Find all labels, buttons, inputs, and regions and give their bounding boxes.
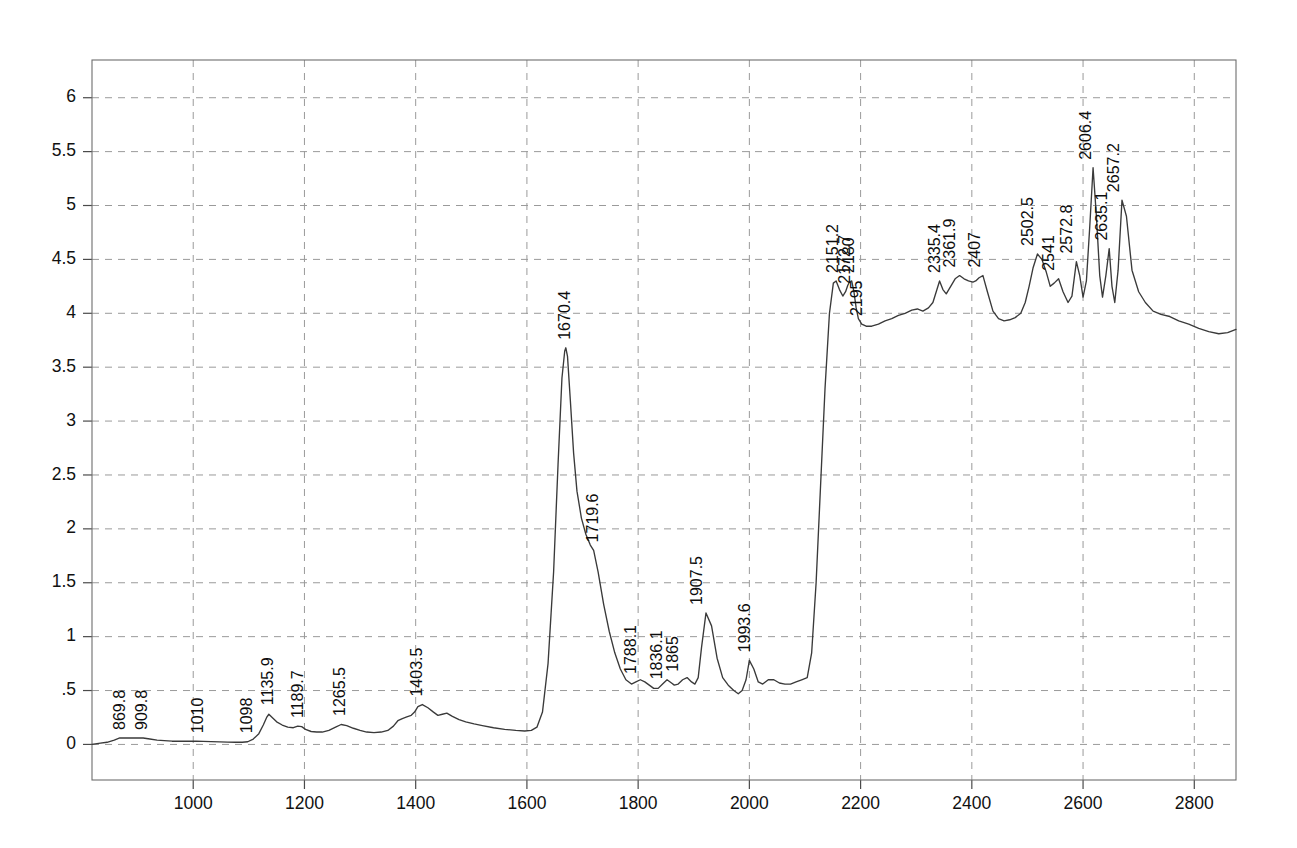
peak-label: 1135.9 [259,657,276,705]
x-axis-tick-label: 1200 [285,793,324,813]
x-axis-tick-label: 1000 [174,793,213,813]
x-axis-tick-label: 2000 [730,793,769,813]
y-axis-tick-label: 3.5 [52,356,76,376]
x-axis-tick-label: 2800 [1175,793,1214,813]
peak-label: 1865 [665,636,682,672]
peak-label: 1098 [238,698,255,734]
y-axis-tick-label: 4 [66,302,76,322]
y-axis-tick-label: 0 [66,733,76,753]
peak-label: 2361.9 [941,219,958,268]
peak-label: 909.8 [133,690,150,730]
y-axis-tick-label: 3 [66,410,76,430]
spectrum-plot: 0.511.522.533.544.555.56 100012001400160… [0,0,1297,848]
peak-label: 2572.8 [1058,205,1075,254]
y-axis-tick-label: 5.5 [52,140,76,160]
y-axis-tick-label: 1.5 [52,571,76,591]
peak-label: 1189.7 [289,670,306,718]
peak-label: 1403.5 [408,648,425,697]
peak-label: 2541 [1040,235,1057,271]
peak-labels-group: 869.8909.8101010981135.91189.71265.51403… [111,111,1122,733]
x-axis-tick-label: 1600 [507,793,546,813]
spectrum-chart: 0.511.522.533.544.555.56 100012001400160… [0,0,1297,848]
peak-label: 1907.5 [688,556,705,605]
x-axis-tick-label: 2600 [1064,793,1103,813]
y-axis-labels: 0.511.522.533.544.555.56 [52,86,77,753]
peak-label: 1836.1 [648,630,665,679]
x-axis-tick-label: 2200 [841,793,880,813]
y-axis-tick-label: 6 [66,86,76,106]
peak-label: 1265.5 [331,667,348,716]
y-axis-tick-label: 2 [66,517,76,537]
peak-label: 2606.4 [1077,111,1094,160]
x-axis-labels: 1000120014001600180020002200240026002800 [174,793,1214,813]
y-axis-tick-label: 1 [66,625,76,645]
peak-label: 2407 [966,232,983,268]
peak-label: 1010 [189,698,206,734]
peak-label: 2180 [840,237,857,273]
x-axis-tick-label: 1800 [619,793,658,813]
y-axis-tick-label: 4.5 [52,248,76,268]
peak-label: 1993.6 [736,603,753,652]
peak-label: 1719.6 [584,493,601,542]
y-axis-tick-label: 2.5 [52,464,76,484]
peak-label: 2195 [848,280,865,316]
x-axis-tick-label: 2400 [952,793,991,813]
y-axis-tick-label: .5 [61,679,76,699]
peak-label: 2635.1 [1093,192,1110,241]
peak-label: 1670.4 [556,291,573,340]
peak-label: 869.8 [111,690,128,730]
y-axis-tick-label: 5 [66,194,76,214]
peak-label: 2657.2 [1105,143,1122,192]
x-axis-tick-label: 1400 [396,793,435,813]
peak-label: 2502.5 [1019,197,1036,246]
peak-label: 1788.1 [622,625,639,674]
